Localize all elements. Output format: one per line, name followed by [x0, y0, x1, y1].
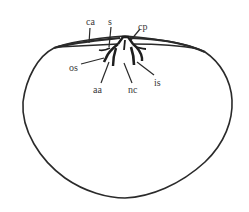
label-nc: nc: [128, 85, 137, 95]
body-outline: [23, 36, 232, 198]
leader-os: [81, 58, 104, 64]
right-structure-inner: [131, 47, 134, 65]
leader-is: [137, 62, 154, 75]
label-os: os: [69, 63, 78, 73]
label-is: is: [154, 78, 161, 88]
left-structure-inner: [113, 48, 116, 66]
leader-aa: [101, 62, 109, 83]
left-structure-branch: [99, 48, 110, 50]
label-aa: aa: [93, 85, 102, 95]
outline-drawing: [0, 0, 249, 212]
label-s: s: [108, 17, 112, 27]
label-cp: cp: [138, 22, 147, 32]
diagram-figure: ca s cp os aa nc is: [0, 0, 249, 212]
left-structure-outer: [104, 44, 118, 62]
label-ca: ca: [86, 17, 95, 27]
notochord-slit: [124, 40, 125, 50]
leader-nc: [124, 63, 132, 83]
